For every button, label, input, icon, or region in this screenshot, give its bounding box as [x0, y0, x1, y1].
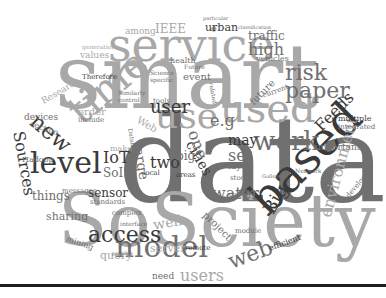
cloud-word: local: [143, 170, 160, 177]
word-cloud: datasmartSoScietyservicetimeusedusebased…: [0, 0, 386, 298]
cloud-word: complex: [112, 210, 142, 217]
cloud-word: IEEE: [155, 23, 186, 35]
cloud-word: need: [152, 272, 174, 281]
cloud-word: possible: [112, 251, 133, 256]
cloud-word: vehicles: [256, 55, 289, 63]
cloud-word: stock: [230, 175, 249, 182]
cloud-word: integrated: [338, 124, 375, 131]
cloud-word: multiple: [338, 115, 371, 123]
cloud-word: traffic: [248, 30, 285, 42]
cloud-word: sharing: [46, 211, 88, 222]
cloud-word: work: [253, 128, 319, 154]
cloud-word: classification: [238, 25, 271, 30]
cloud-word: module: [235, 228, 261, 235]
cloud-word: tools: [153, 98, 170, 105]
cloud-word: remote: [185, 245, 210, 252]
cloud-word: Gollsword: [262, 174, 288, 179]
cloud-word: particular: [203, 16, 228, 21]
cloud-word: event: [183, 72, 211, 82]
cloud-word: control: [118, 97, 140, 103]
cloud-word: urban: [205, 22, 238, 33]
cloud-word: generation: [82, 44, 115, 50]
cloud-word: values: [80, 51, 109, 60]
cloud-word: areas: [176, 172, 195, 179]
cloud-word: may: [228, 133, 258, 147]
cloud-word: Hadoop: [22, 156, 54, 164]
cloud-word: devices: [24, 113, 58, 122]
cloud-word: Network: [295, 168, 321, 174]
cloud-word: interface: [120, 221, 147, 227]
bottom-rule: [0, 284, 386, 287]
cloud-word: standards: [90, 199, 125, 206]
cloud-word: make: [110, 145, 132, 153]
cloud-word: layer: [228, 162, 251, 171]
cloud-word: important: [315, 143, 360, 152]
cloud-word: Future: [184, 64, 205, 70]
cloud-word: e.g: [210, 113, 235, 129]
cloud-word: SoIS: [103, 167, 131, 179]
cloud-word: server: [150, 243, 185, 254]
cloud-word: include: [78, 117, 104, 124]
cloud-word: messages: [62, 188, 96, 195]
cloud-word: risk: [285, 62, 327, 84]
cloud-word: specific: [150, 77, 173, 83]
cloud-word: big: [176, 150, 195, 162]
cloud-word: Therefore: [82, 74, 117, 81]
cloud-word: users: [180, 268, 224, 284]
cloud-word: among: [125, 27, 156, 36]
